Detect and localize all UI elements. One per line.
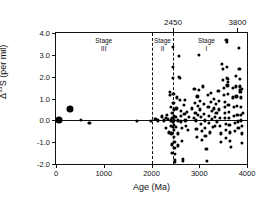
data-point xyxy=(186,129,189,132)
data-point xyxy=(222,86,225,89)
y-axis-tick-label: 2.0 xyxy=(40,72,50,81)
data-point xyxy=(183,98,186,101)
stage-annotation-word: Stage xyxy=(95,37,112,45)
data-point xyxy=(200,122,203,125)
data-point xyxy=(165,126,168,129)
data-point xyxy=(227,117,230,120)
y-axis-tick-label: -1.0 xyxy=(37,138,50,147)
data-point xyxy=(215,120,218,123)
data-point xyxy=(184,124,187,127)
data-point xyxy=(214,102,217,105)
data-point xyxy=(209,91,212,94)
data-point xyxy=(221,62,224,65)
data-point xyxy=(182,103,185,106)
figure-container: StageIIIStageIIStageI -2.0-1.00.01.02.03… xyxy=(0,0,268,206)
data-point xyxy=(220,141,223,144)
y-axis-tick xyxy=(52,99,56,100)
data-point xyxy=(199,115,202,118)
data-point xyxy=(238,77,241,80)
data-point xyxy=(200,130,203,133)
data-point xyxy=(202,112,205,115)
data-point xyxy=(198,99,201,102)
stage-divider xyxy=(152,33,153,164)
x-axis-tick-label: 2000 xyxy=(143,169,160,178)
data-point xyxy=(227,93,230,96)
data-point xyxy=(194,119,197,122)
data-point xyxy=(235,95,238,98)
stage-annotation: StageIII xyxy=(95,37,112,52)
data-point xyxy=(218,108,221,111)
data-point xyxy=(203,119,206,122)
x-axis-tick xyxy=(199,164,200,168)
data-point xyxy=(210,100,213,103)
data-point xyxy=(176,132,179,135)
data-point xyxy=(173,146,176,149)
x-axis-tick-label: 4000 xyxy=(239,169,256,178)
data-point xyxy=(56,117,62,124)
data-point xyxy=(135,120,138,123)
data-point xyxy=(175,107,178,110)
data-point xyxy=(239,106,242,109)
data-point xyxy=(241,111,244,114)
data-point xyxy=(223,100,226,103)
stage-annotation-numeral: III xyxy=(95,45,112,53)
data-point xyxy=(177,144,180,147)
data-point xyxy=(238,67,241,70)
data-point xyxy=(197,54,200,57)
plot-area: StageIIIStageIIStageI xyxy=(56,33,247,164)
data-point xyxy=(208,131,211,134)
data-point xyxy=(179,98,182,101)
data-point xyxy=(226,81,229,84)
data-point xyxy=(166,113,169,116)
data-point xyxy=(205,159,208,162)
data-point xyxy=(203,126,206,129)
data-point xyxy=(190,107,193,110)
data-point xyxy=(184,119,187,122)
data-point xyxy=(234,85,237,88)
data-point xyxy=(160,115,163,118)
data-point xyxy=(204,134,207,137)
data-point xyxy=(235,105,238,108)
data-point xyxy=(207,114,210,117)
x-axis-tick-label: 0 xyxy=(54,169,58,178)
data-point xyxy=(207,106,210,109)
data-point xyxy=(172,76,175,79)
stage-annotation-numeral: II xyxy=(154,45,171,53)
data-point xyxy=(201,85,204,88)
data-point xyxy=(215,111,218,114)
data-point xyxy=(239,96,242,99)
y-axis-tick-label: 1.0 xyxy=(40,94,50,103)
data-point xyxy=(88,121,91,124)
top-annotation-label: 2450 xyxy=(164,18,182,27)
data-point xyxy=(205,147,208,150)
data-point xyxy=(212,107,215,110)
top-annotation-tick xyxy=(237,28,238,33)
y-axis-tick-label: -2.0 xyxy=(37,160,50,169)
data-point xyxy=(222,94,225,97)
data-point xyxy=(171,46,174,49)
data-point xyxy=(217,99,220,102)
data-point xyxy=(172,101,175,104)
y-axis-tick xyxy=(52,33,56,34)
stage-annotation-word: Stage xyxy=(154,37,171,45)
data-point xyxy=(157,119,160,122)
data-point xyxy=(168,94,171,97)
stage-annotation: StageI xyxy=(198,37,215,52)
data-point xyxy=(229,145,232,148)
data-point xyxy=(222,78,225,81)
data-point xyxy=(239,90,242,93)
stage-divider xyxy=(173,33,174,164)
data-point xyxy=(66,105,73,112)
y-axis-tick-label: 0.0 xyxy=(40,116,50,125)
data-point xyxy=(227,110,230,113)
data-point xyxy=(217,89,220,92)
y-axis-tick-label: 4.0 xyxy=(40,29,50,38)
data-point xyxy=(177,54,180,57)
data-point xyxy=(226,84,229,87)
data-point xyxy=(213,124,216,127)
data-point xyxy=(224,122,227,125)
data-point xyxy=(173,141,176,144)
data-point xyxy=(212,97,215,100)
data-point xyxy=(201,138,204,141)
data-point xyxy=(174,125,177,128)
